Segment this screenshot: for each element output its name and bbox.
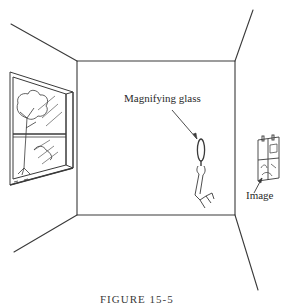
floor-left-edge <box>14 215 77 252</box>
ceiling-left-edge <box>11 24 77 61</box>
image-label: Image <box>246 189 273 201</box>
magnifying-glass-icon <box>172 110 205 166</box>
rain-streaks <box>34 96 62 164</box>
hand-arm-icon <box>195 166 214 208</box>
magnifying-glass-label: Magnifying glass <box>124 92 201 104</box>
ceiling-right-edge <box>235 10 253 61</box>
image-card <box>254 135 279 193</box>
floor-right-edge <box>235 215 258 290</box>
window <box>10 72 73 185</box>
back-wall <box>77 61 235 215</box>
figure-caption: FIGURE 15-5 <box>100 293 174 305</box>
